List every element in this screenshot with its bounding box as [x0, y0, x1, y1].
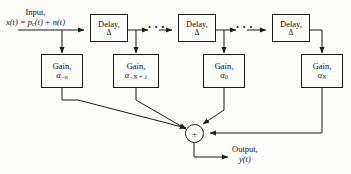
delay-block-1[interactable]: Delay, Δ — [90, 14, 128, 42]
gain-1-value: α−n — [56, 71, 68, 80]
summing-junction-symbol: + — [192, 129, 197, 139]
delay-block-2[interactable]: Delay, Δ — [178, 14, 216, 42]
delay-block-3[interactable]: Delay, Δ — [272, 14, 310, 42]
delay-1-value: Δ — [107, 29, 112, 37]
ellipsis-dots-2: • • • — [236, 23, 253, 32]
ellipsis-dots-1: • • • — [148, 23, 165, 32]
gain-2-subscript: −N + 1 — [129, 74, 147, 80]
gain-4-value: αN — [318, 71, 326, 80]
delay-2-value: Δ — [195, 29, 200, 37]
input-label: Input, x(t) = pc(t) + n(t) — [6, 8, 65, 28]
input-label-equation: x(t) = pc(t) + n(t) — [6, 18, 65, 28]
gain-2-label: Gain, — [127, 62, 146, 71]
gain-block-3[interactable]: Gain, α0 — [203, 54, 245, 88]
input-eq-rhs: (t) + n(t) — [35, 17, 65, 27]
gain-block-2[interactable]: Gain, α−N + 1 — [113, 54, 159, 88]
input-eq-lhs: x(t) = p — [6, 17, 32, 27]
gain-4-subscript: N — [322, 74, 326, 80]
summing-junction[interactable]: + — [185, 124, 204, 143]
delay-3-value: Δ — [289, 29, 294, 37]
gain-2-value: α−N + 1 — [125, 71, 148, 80]
gain-1-subscript: −n — [61, 74, 68, 80]
gain-3-subscript: 0 — [225, 74, 228, 80]
gain-3-value: α0 — [220, 71, 227, 80]
block-diagram: Input, x(t) = pc(t) + n(t) Delay, Δ Dela… — [0, 0, 351, 174]
gain-block-4[interactable]: Gain, αN — [301, 54, 343, 88]
output-label-line2: y(t) — [232, 155, 258, 165]
output-label: Output, y(t) — [232, 145, 258, 165]
gain-block-1[interactable]: Gain, α−n — [41, 54, 83, 88]
